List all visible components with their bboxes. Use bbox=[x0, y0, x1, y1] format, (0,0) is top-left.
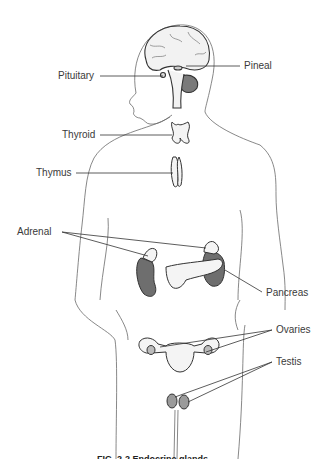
thyroid-gland bbox=[172, 122, 190, 143]
brain bbox=[145, 26, 210, 108]
label-thymus: Thymus bbox=[36, 167, 72, 179]
thymus-gland bbox=[171, 157, 182, 187]
label-adrenal: Adrenal bbox=[17, 226, 51, 238]
label-ovaries: Ovaries bbox=[276, 324, 310, 336]
endocrine-diagram: Pituitary Pineal Thyroid Thymus Adrenal … bbox=[0, 0, 329, 459]
label-testis: Testis bbox=[276, 356, 302, 368]
uterus-ovaries bbox=[139, 338, 219, 372]
label-pituitary: Pituitary bbox=[58, 70, 94, 82]
label-pancreas: Pancreas bbox=[266, 287, 308, 299]
label-pineal: Pineal bbox=[244, 60, 272, 72]
label-thyroid: Thyroid bbox=[62, 129, 95, 141]
figure-caption: FIG. 2-2 Endocrine glands bbox=[97, 453, 208, 459]
